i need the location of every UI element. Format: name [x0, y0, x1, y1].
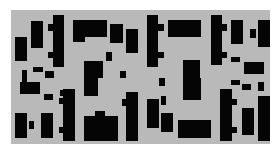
black-block — [158, 24, 164, 31]
black-block — [95, 111, 105, 117]
black-block — [231, 80, 240, 85]
black-block — [122, 99, 127, 106]
black-block — [183, 60, 200, 78]
black-block — [48, 52, 53, 58]
black-block — [63, 89, 75, 141]
black-block — [231, 57, 240, 62]
black-block — [258, 125, 270, 141]
black-block — [232, 99, 237, 105]
black-block — [231, 20, 243, 44]
black-block — [73, 20, 107, 37]
black-block — [183, 78, 201, 100]
black-block — [168, 20, 201, 37]
black-block — [110, 24, 123, 43]
black-block — [244, 62, 264, 74]
black-block — [15, 37, 27, 61]
black-block — [84, 61, 103, 78]
black-block — [106, 52, 112, 61]
black-block — [126, 92, 138, 141]
black-block — [53, 15, 64, 67]
black-block — [258, 20, 270, 47]
black-block — [84, 116, 118, 141]
black-block — [31, 21, 43, 48]
black-block — [258, 82, 264, 91]
black-block — [232, 127, 237, 133]
black-block — [220, 89, 232, 141]
black-block — [20, 82, 40, 94]
black-block — [15, 113, 27, 138]
black-block — [73, 37, 85, 42]
black-block — [242, 84, 251, 90]
black-block — [126, 29, 138, 53]
black-block — [161, 96, 166, 105]
black-block — [41, 113, 53, 138]
black-block — [33, 67, 43, 72]
black-block — [158, 52, 164, 58]
black-block — [147, 15, 158, 67]
black-block — [258, 96, 270, 125]
black-block — [222, 52, 227, 58]
black-block — [222, 24, 227, 31]
black-block — [48, 24, 53, 31]
black-block — [120, 71, 126, 78]
black-block — [59, 98, 64, 104]
black-block — [178, 120, 211, 138]
black-block — [29, 121, 34, 129]
black-block — [242, 108, 254, 135]
black-block — [44, 94, 53, 100]
black-block — [211, 15, 222, 65]
black-block — [84, 78, 98, 96]
black-block — [59, 127, 64, 133]
black-block — [45, 71, 54, 78]
black-block — [22, 70, 27, 82]
black-block — [250, 29, 256, 38]
black-block — [161, 113, 173, 132]
black-block — [159, 78, 165, 86]
black-block — [147, 99, 159, 128]
